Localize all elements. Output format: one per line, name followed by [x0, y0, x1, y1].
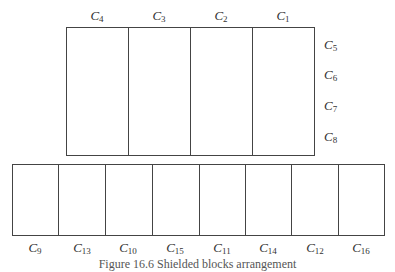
cell-label-c14: C14 [259, 241, 277, 256]
bottom-block-divider [338, 164, 339, 236]
cell-label-c8: C8 [324, 130, 337, 145]
cell-label-c5: C5 [324, 38, 337, 53]
cell-label-c9: C9 [28, 241, 41, 256]
top-block-divider [190, 27, 191, 156]
bottom-block-divider [291, 164, 292, 236]
cell-label-c10: C10 [119, 241, 137, 256]
top-block-divider [252, 27, 253, 156]
cell-label-c12: C12 [306, 241, 324, 256]
cell-label-c6: C6 [324, 68, 337, 83]
cell-label-c16: C16 [352, 241, 370, 256]
bottom-block-divider [105, 164, 106, 236]
cell-label-c1: C1 [276, 9, 289, 24]
cell-label-c4: C4 [90, 9, 103, 24]
cell-label-c3: C3 [152, 9, 165, 24]
bottom-block-divider [152, 164, 153, 236]
cell-label-c15: C15 [166, 241, 184, 256]
bottom-block-divider [58, 164, 59, 236]
figure-caption: Figure 16.6 Shielded blocks arrangement [0, 257, 395, 272]
cell-label-c2: C2 [214, 9, 227, 24]
cell-label-c7: C7 [324, 99, 337, 114]
bottom-block-divider [245, 164, 246, 236]
cell-label-c13: C13 [73, 241, 91, 256]
top-block-divider [128, 27, 129, 156]
bottom-block-divider [199, 164, 200, 236]
cell-label-c11: C11 [213, 241, 230, 256]
